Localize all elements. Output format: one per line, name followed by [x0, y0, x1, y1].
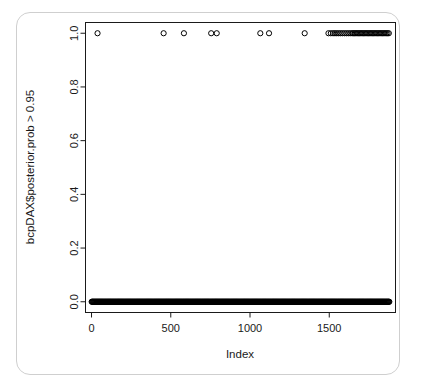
y-tick-label: 0.2: [68, 240, 80, 255]
x-tick-label: 0: [88, 322, 94, 334]
y-axis-ticks: 0.00.20.40.60.81.0: [68, 26, 85, 310]
data-point: [209, 31, 214, 36]
data-point: [258, 31, 263, 36]
data-point: [266, 31, 271, 36]
data-point: [181, 31, 186, 36]
plot-frame: [86, 23, 396, 313]
data-points-true: [95, 31, 392, 36]
y-tick-label: 0.4: [68, 187, 80, 202]
x-axis-ticks: 050010001500: [88, 313, 341, 334]
plot-area: 050010001500 0.00.20.40.60.81.0 Index bc…: [0, 0, 422, 389]
x-tick-label: 500: [162, 322, 180, 334]
y-tick-label: 0.8: [68, 79, 80, 94]
y-tick-label: 0.0: [68, 294, 80, 309]
figure-root: 050010001500 0.00.20.40.60.81.0 Index bc…: [0, 0, 422, 389]
y-tick-label: 1.0: [68, 26, 80, 41]
x-axis-title: Index: [226, 348, 254, 360]
scatter-plot-svg: 050010001500 0.00.20.40.60.81.0 Index bc…: [0, 0, 422, 389]
data-point: [302, 31, 307, 36]
data-point: [161, 31, 166, 36]
data-point: [95, 31, 100, 36]
y-axis-title: bcpDAX$posterior.prob > 0.95: [24, 90, 36, 244]
y-tick-label: 0.6: [68, 133, 80, 148]
data-points-false: [89, 299, 392, 304]
x-tick-label: 1000: [238, 322, 262, 334]
x-tick-label: 1500: [317, 322, 341, 334]
data-point: [214, 31, 219, 36]
